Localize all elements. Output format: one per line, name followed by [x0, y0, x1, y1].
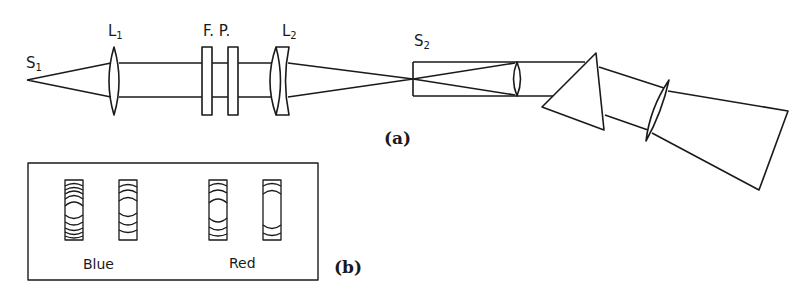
fringe-blue-1 — [65, 180, 83, 240]
fp-plate-1 — [202, 47, 212, 115]
caption-a: (a) — [384, 128, 411, 148]
l1-lens — [109, 47, 119, 115]
blue-label: Blue — [83, 256, 114, 272]
camera-cone — [652, 91, 788, 190]
s1-label: S1 — [26, 56, 42, 73]
s2-cone — [413, 63, 515, 95]
prism — [542, 53, 604, 130]
prism-beam — [599, 67, 664, 130]
l2-lens-convex — [270, 47, 281, 115]
l2-label: L2 — [282, 24, 297, 41]
fp-plate-2 — [228, 47, 238, 115]
optical-diagram — [0, 0, 806, 306]
red-label: Red — [229, 255, 256, 271]
camera-lens — [646, 80, 669, 141]
fp-label: F. P. — [203, 24, 230, 39]
l1-label: L1 — [108, 24, 123, 41]
caption-b: (b) — [334, 257, 362, 277]
fringe-blue-2 — [119, 180, 137, 240]
fringe-red-2 — [263, 180, 281, 240]
fringe-red-1 — [209, 180, 227, 240]
beam-l1-l2 — [119, 63, 272, 97]
collimator-lens — [514, 62, 521, 96]
s2-label: S2 — [414, 34, 430, 51]
l2-cone — [288, 63, 413, 97]
